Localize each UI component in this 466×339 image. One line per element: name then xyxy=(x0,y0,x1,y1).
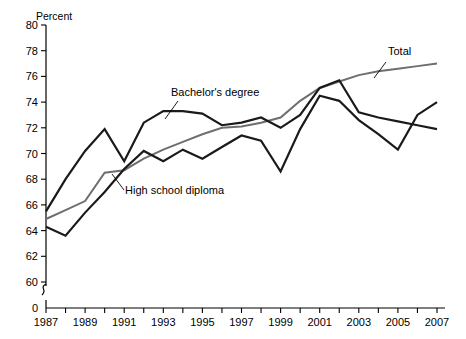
series-annotations: TotalBachelor's degreeHigh school diplom… xyxy=(112,45,411,196)
y-tick-label: 66 xyxy=(26,199,38,211)
x-tick-label: 2001 xyxy=(307,316,331,328)
y-axis-ticks: 06062646668707274767880 xyxy=(26,19,46,314)
x-tick-label: 1993 xyxy=(151,316,175,328)
y-tick-label: 68 xyxy=(26,173,38,185)
x-tick-label: 2007 xyxy=(425,316,449,328)
chart-container: Percent 06062646668707274767880 19871989… xyxy=(0,0,466,339)
y-axis-label: Percent xyxy=(36,10,72,22)
y-tick-label: 70 xyxy=(26,148,38,160)
y-tick-label: 64 xyxy=(26,225,38,237)
y-tick-label: 74 xyxy=(26,96,38,108)
y-tick-label: 62 xyxy=(26,250,38,262)
x-tick-label: 1999 xyxy=(268,316,292,328)
x-tick-label: 2005 xyxy=(386,316,410,328)
y-tick-label: 72 xyxy=(26,122,38,134)
series-label-total: Total xyxy=(388,45,411,57)
x-tick-label: 1987 xyxy=(34,316,58,328)
x-tick-label: 1989 xyxy=(73,316,97,328)
y-tick-label: 80 xyxy=(26,19,38,31)
series-label-high-school-diploma: High school diploma xyxy=(125,184,225,196)
x-tick-label: 1997 xyxy=(229,316,253,328)
y-tick-label: 60 xyxy=(26,276,38,288)
x-tick-label: 1995 xyxy=(190,316,214,328)
x-axis-ticks: 1987198919911993199519971999200120032005… xyxy=(34,308,449,328)
series-label-bachelor-s-degree: Bachelor's degree xyxy=(171,86,259,98)
line-chart: Percent 06062646668707274767880 19871989… xyxy=(0,0,466,339)
x-tick-label: 2003 xyxy=(347,316,371,328)
x-tick-label: 1991 xyxy=(112,316,136,328)
axis-lines xyxy=(42,25,445,308)
y-tick-label: 0 xyxy=(32,302,38,314)
y-tick-label: 76 xyxy=(26,70,38,82)
y-tick-label: 78 xyxy=(26,45,38,57)
